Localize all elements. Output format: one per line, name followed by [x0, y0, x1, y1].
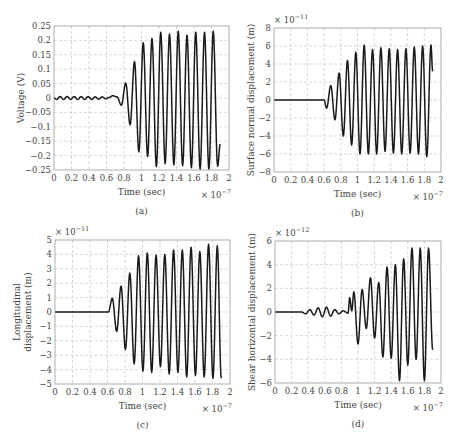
y-tick-label: −4: [259, 354, 272, 364]
x-tick-label: 1: [355, 175, 360, 185]
subplot-caption: (a): [135, 206, 147, 216]
subplot-c: 00.20.40.60.811.21.41.61.82543210−1−2−3−…: [12, 225, 233, 430]
x-tick-label: 1.8: [206, 387, 220, 397]
y-axis-label: Longitudinaldisplacement (m): [12, 272, 33, 351]
x-axis-multiplier: × 10−7: [201, 188, 231, 200]
x-tick-label: 0: [52, 387, 57, 397]
y-tick-label: −3: [39, 350, 52, 360]
y-tick-label: 2: [267, 283, 272, 293]
x-tick-label: 0: [51, 173, 56, 183]
y-tick-label: 4: [267, 260, 272, 270]
data-series-line: [275, 248, 433, 381]
x-tick-label: 0.6: [101, 387, 115, 397]
y-tick-label: 0: [267, 307, 272, 317]
y-tick-label: −2: [39, 336, 52, 346]
x-tick-label: 2: [438, 175, 443, 185]
subplot-a: 00.20.40.60.811.21.41.61.820.250.20.150.…: [16, 21, 232, 216]
x-tick-label: 0.8: [334, 175, 348, 185]
y-axis-multiplier: × 10−11: [55, 225, 89, 237]
x-tick-label: 0.6: [318, 386, 332, 396]
data-series-line: [274, 45, 433, 157]
x-tick-label: 2: [227, 387, 232, 397]
data-series-line: [54, 31, 220, 169]
y-tick-label: −5: [39, 379, 52, 389]
subplot-b: 00.20.40.60.811.21.41.61.8286420−2−4−6−8…: [246, 13, 444, 218]
y-tick-label: −8: [258, 167, 271, 177]
y-axis-label: Shear horizontal displacement (m): [247, 233, 257, 391]
y-tick-label: 3: [47, 264, 52, 274]
x-tick-label: 1.2: [153, 387, 167, 397]
x-tick-label: 1.4: [384, 386, 398, 396]
x-tick-label: 0.6: [317, 175, 331, 185]
x-tick-label: 1.2: [368, 386, 382, 396]
x-tick-label: 0: [272, 386, 277, 396]
y-tick-label: 6: [266, 41, 271, 51]
x-axis-multiplier: × 10−7: [413, 190, 443, 202]
y-tick-label: −2: [258, 113, 271, 123]
x-tick-label: 1.4: [384, 175, 398, 185]
data-series-line: [55, 244, 221, 378]
y-tick-label: 8: [266, 23, 271, 33]
y-tick-label: −0.25: [25, 165, 51, 175]
y-axis-label: Voltage (V): [16, 73, 26, 124]
y-tick-label: 0: [46, 93, 51, 103]
x-tick-label: 1.6: [188, 387, 202, 397]
x-tick-label: 1.8: [418, 175, 432, 185]
y-tick-label: −0.15: [25, 136, 51, 146]
x-axis-label: Time (sec): [119, 401, 167, 411]
subplot-caption: (b): [351, 208, 364, 218]
y-tick-label: 6: [267, 236, 272, 246]
y-tick-label: 0.05: [32, 79, 51, 89]
y-tick-label: 0: [266, 95, 271, 105]
x-tick-label: 0.4: [301, 175, 315, 185]
x-axis-label: Time (sec): [334, 400, 382, 410]
y-tick-label: −6: [259, 378, 272, 388]
subplot-d: 00.20.40.60.811.21.41.61.826420−2−4−6Tim…: [247, 226, 444, 429]
y-tick-label: −0.05: [25, 107, 51, 117]
x-tick-label: 1.6: [187, 173, 201, 183]
x-tick-label: 0.2: [66, 387, 80, 397]
x-tick-label: 1.4: [170, 173, 184, 183]
y-tick-label: 0.15: [32, 50, 51, 60]
x-tick-label: 0.4: [83, 387, 97, 397]
x-tick-label: 1.2: [367, 175, 381, 185]
y-tick-label: −0.1: [30, 122, 51, 132]
x-tick-label: 0.2: [284, 175, 298, 185]
x-tick-label: 1: [140, 387, 145, 397]
x-axis-label: Time (sec): [118, 187, 166, 197]
y-tick-label: 4: [47, 249, 52, 259]
y-tick-label: −2: [259, 331, 272, 341]
x-tick-label: 0.4: [82, 173, 96, 183]
y-axis-multiplier: × 10−12: [275, 226, 309, 238]
x-tick-label: 0.2: [285, 386, 299, 396]
x-tick-label: 1: [355, 386, 360, 396]
subplot-caption: (c): [136, 420, 148, 430]
y-axis-label: Surface normal displacement (m): [246, 24, 256, 177]
y-tick-label: 2: [47, 278, 52, 288]
y-axis-multiplier: × 10−11: [274, 13, 308, 25]
x-tick-label: 0.4: [301, 386, 315, 396]
x-tick-label: 0.8: [118, 387, 132, 397]
x-tick-label: 1.8: [205, 173, 219, 183]
y-tick-label: 2: [266, 77, 271, 87]
y-tick-label: 0.2: [37, 35, 51, 45]
x-axis-label: Time (sec): [334, 189, 382, 199]
y-tick-label: −6: [258, 149, 271, 159]
x-tick-label: 1.4: [171, 387, 185, 397]
y-tick-label: 0.25: [32, 21, 51, 31]
y-tick-label: 1: [47, 293, 52, 303]
y-tick-label: −4: [39, 365, 52, 375]
figure-canvas: 00.20.40.60.811.21.41.61.820.250.20.150.…: [0, 0, 456, 442]
x-tick-label: 0.8: [335, 386, 349, 396]
x-tick-label: 1.8: [418, 386, 432, 396]
x-tick-label: 1: [139, 173, 144, 183]
x-tick-label: 1.6: [401, 386, 415, 396]
x-tick-label: 2: [438, 386, 443, 396]
subplot-caption: (d): [352, 419, 365, 429]
x-tick-label: 1.2: [152, 173, 166, 183]
y-tick-label: 0: [47, 307, 52, 317]
x-tick-label: 0.2: [65, 173, 79, 183]
y-tick-label: 0.1: [37, 64, 51, 74]
y-tick-label: −0.2: [30, 151, 51, 161]
y-tick-label: −1: [39, 321, 52, 331]
